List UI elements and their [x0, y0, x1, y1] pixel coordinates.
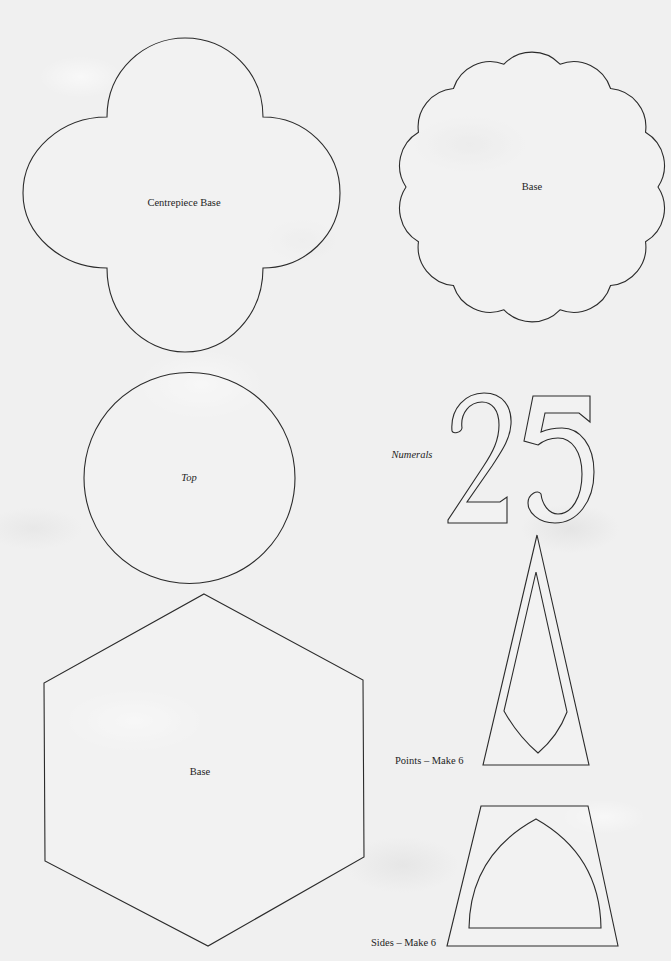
template-sheet — [0, 0, 671, 961]
points-triangle-outline — [483, 535, 589, 765]
centrepiece-base-label: Centrepiece Base — [147, 198, 220, 209]
numerals-label: Numerals — [392, 450, 433, 461]
numeral-2-outline — [448, 393, 511, 523]
hexagon-base-label: Base — [190, 767, 210, 778]
sides-trapezoid-outline — [447, 806, 618, 946]
points-label: Points – Make 6 — [395, 756, 464, 767]
sides-label: Sides – Make 6 — [371, 938, 436, 949]
scalloped-base-label: Base — [522, 182, 542, 193]
top-label: Top — [181, 473, 196, 484]
numeral-5-outline — [524, 396, 594, 523]
centrepiece-base-outline — [23, 38, 340, 352]
